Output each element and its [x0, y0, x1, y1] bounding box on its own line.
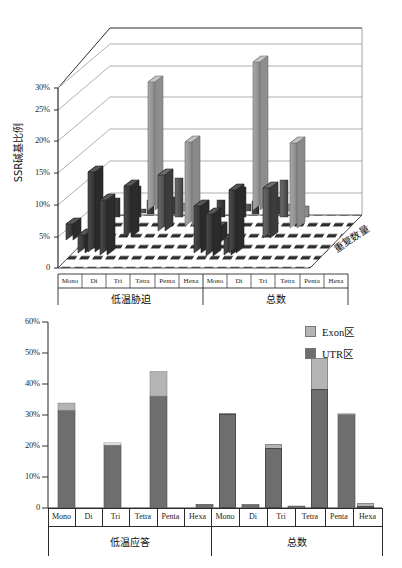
- ytick-2d-10: 10%: [12, 471, 40, 481]
- legend-swatch-utr: [305, 348, 316, 359]
- cat-3d-g1-mono: Mono: [58, 277, 82, 285]
- bar-g1-mono-exon: [58, 403, 75, 410]
- group-label-2d-total: 总数: [211, 534, 382, 549]
- bar-g2-mono-exon: [338, 414, 355, 415]
- cat-3d-g2-penta: Penta: [300, 277, 324, 285]
- ytick-2d-30: 30%: [12, 409, 40, 419]
- cat-row-right-border-2d: [382, 508, 383, 556]
- cat-3d-g2-tetra: Tetra: [275, 277, 300, 285]
- legend-swatch-exon: [305, 326, 316, 337]
- bar-g1-di-utr: [104, 445, 121, 508]
- cat-3d-g1-di: Di: [82, 277, 106, 285]
- legend-label-utr: UTR区: [322, 346, 353, 361]
- bar-g1-tri-utr: [150, 396, 167, 508]
- ytick-3d-0: 0: [20, 262, 50, 272]
- cat-3d-g2-tri: Tri: [251, 277, 275, 285]
- cat-2d-g1-hexa: Hexa: [184, 512, 211, 521]
- cat-3d-g1-penta: Penta: [155, 277, 179, 285]
- group-label-2d-cold-response: 低温应答: [48, 534, 211, 549]
- ytick-2d-50: 50%: [12, 347, 40, 357]
- group-label-3d-total: 总数: [203, 291, 348, 306]
- figure-container: SSR碱基比例: [0, 0, 402, 568]
- ytick-2d-40: 40%: [12, 378, 40, 388]
- bar-g2-mono-utr: [338, 414, 355, 508]
- cat-2d-g2-mono: Mono: [211, 512, 239, 521]
- cat-2d-g1-penta: Penta: [157, 512, 184, 521]
- ytick-2d-0: 0: [12, 502, 40, 512]
- ytick-3d-30: 30%: [20, 82, 50, 92]
- cat-3d-g1-tetra: Tetra: [130, 277, 155, 285]
- bar-g1-mono-utr: [58, 410, 75, 508]
- cat-3d-g2-mono: Mono: [203, 277, 227, 285]
- ytick-2d-60: 60%: [12, 316, 40, 326]
- cat-2d-g2-penta: Penta: [325, 512, 353, 521]
- bar-g1-di-exon: [104, 443, 121, 445]
- cat-3d-g1-tri: Tri: [106, 277, 130, 285]
- ytick-3d-25: 25%: [20, 104, 50, 114]
- cat-2d-g2-tetra: Tetra: [295, 512, 325, 521]
- cat-3d-g1-hexa: Hexa: [179, 277, 203, 285]
- bar-g1-tri-exon: [150, 372, 167, 397]
- cat-row-top-border-2d: [48, 508, 382, 509]
- ytick-3d-5: 5%: [20, 231, 50, 241]
- ytick-3d-15: 15%: [20, 167, 50, 177]
- cat-2d-g1-tri: Tri: [102, 512, 129, 521]
- legend-label-exon: Exon区: [322, 324, 354, 339]
- cat-2d-g2-tri: Tri: [267, 512, 295, 521]
- ytick-2d-20: 20%: [12, 440, 40, 450]
- cat-2d-g1-mono: Mono: [48, 512, 75, 521]
- cat-2d-g1-tetra: Tetra: [129, 512, 157, 521]
- cat-row-bottom-border-2d: [48, 526, 382, 527]
- ytick-3d-10: 10%: [20, 199, 50, 209]
- cat-3d-g2-di: Di: [227, 277, 251, 285]
- cat-2d-g2-hexa: Hexa: [353, 512, 382, 521]
- chart-2d-exon-utr-stacked: 60% 50% 40% 30% 20% 10% 0 Exon区 UTR区 Mon…: [0, 312, 402, 568]
- chart-3d-ssr-base-ratio: SSR碱基比例: [0, 0, 402, 308]
- cat-3d-g2-hexa: Hexa: [324, 277, 348, 285]
- ytick-3d-20: 20%: [20, 135, 50, 145]
- cat-2d-g1-di: Di: [75, 512, 102, 521]
- group-label-3d-cold-stress: 低温胁迫: [58, 291, 203, 306]
- cat-2d-g2-di: Di: [239, 512, 267, 521]
- chart-3d-canvas: [0, 0, 402, 308]
